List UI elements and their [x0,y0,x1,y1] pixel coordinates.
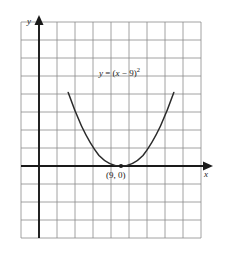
parabola-curve [68,93,174,167]
y-axis [35,15,44,238]
parabola-figure: y x y = (x − 9)2 (9, 0) [0,0,228,255]
equation-equals: = ( [103,68,116,78]
equation-label: y = (x − 9)2 [99,69,140,78]
y-axis-arrow-icon [35,15,44,25]
equation-exponent: 2 [137,66,140,73]
grid-lines [21,22,201,238]
y-axis-label: y [27,17,31,26]
vertex-point-marker [119,164,123,168]
x-axis-label: x [204,170,208,179]
graph-canvas [0,0,228,255]
equation-operator: − 9) [120,68,137,78]
vertex-point-label: (9, 0) [106,171,126,180]
